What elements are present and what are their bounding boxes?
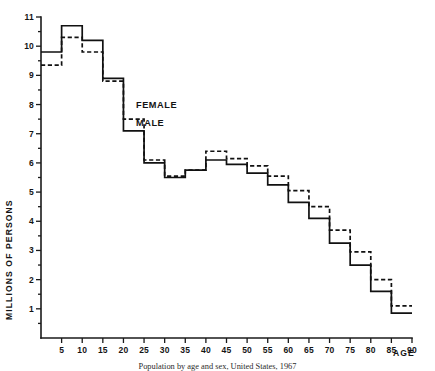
y-tick-label: 3 — [29, 245, 34, 255]
series-label-female: FEMALE — [136, 100, 177, 110]
x-tick-label: 75 — [345, 345, 355, 355]
x-tick-label: 40 — [201, 345, 211, 355]
x-tick-label: 55 — [263, 345, 273, 355]
x-tick-label: 10 — [77, 345, 87, 355]
y-tick-label: 9 — [29, 70, 34, 80]
x-tick-label: 70 — [325, 345, 335, 355]
x-tick-label: 20 — [119, 345, 129, 355]
series-line-male — [41, 26, 412, 313]
x-tick-label: 30 — [160, 345, 170, 355]
y-tick-label: 4 — [29, 216, 34, 226]
x-tick-label: 15 — [98, 345, 108, 355]
figure-caption: Population by age and sex, United States… — [0, 360, 435, 371]
x-axis-title: AGE — [393, 348, 415, 358]
x-axis-group: 51015202530354045505560657075808590 — [41, 338, 417, 355]
x-axis-tick-labels: 51015202530354045505560657075808590 — [59, 345, 417, 355]
y-tick-label: 5 — [29, 187, 34, 197]
y-axis-group: 1234567891011 — [24, 12, 41, 338]
y-tick-label: 2 — [29, 275, 34, 285]
y-tick-label: 1 — [29, 304, 34, 314]
x-tick-label: 45 — [222, 345, 232, 355]
x-tick-label: 60 — [283, 345, 293, 355]
y-tick-label: 6 — [29, 158, 34, 168]
x-tick-label: 65 — [304, 345, 314, 355]
y-axis-title: MILLIONS OF PERSONS — [4, 199, 14, 320]
x-tick-label: 35 — [180, 345, 190, 355]
y-tick-label: 11 — [25, 12, 34, 22]
y-tick-label: 7 — [29, 129, 34, 139]
x-tick-label: 80 — [366, 345, 376, 355]
x-tick-label: 25 — [139, 345, 149, 355]
y-tick-label: 8 — [29, 100, 34, 110]
x-tick-label: 5 — [59, 345, 64, 355]
y-axis-tick-labels: 1234567891011 — [24, 12, 34, 314]
series-label-male: MALE — [136, 118, 164, 128]
y-tick-label: 10 — [24, 41, 34, 51]
x-tick-label: 50 — [242, 345, 252, 355]
